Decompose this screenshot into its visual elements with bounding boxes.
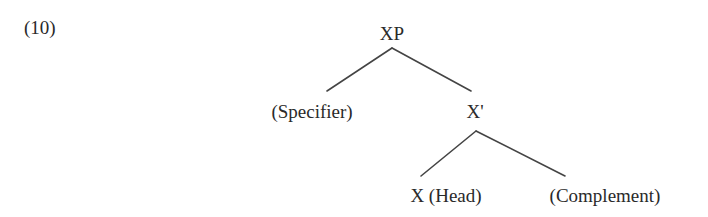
node-x-bar: X' <box>466 102 483 121</box>
branch-xbar-complement <box>476 131 565 176</box>
branch-xbar-head <box>421 131 476 176</box>
node-head: X (Head) <box>410 186 481 205</box>
x-bar-tree-diagram: XP (Specifier) X' X (Head) (Complement) <box>0 0 708 217</box>
node-xp-root: XP <box>380 24 404 43</box>
branch-xp-specifier <box>327 48 392 91</box>
node-specifier: (Specifier) <box>271 102 352 121</box>
branch-xp-xbar <box>392 48 471 91</box>
node-complement: (Complement) <box>550 186 661 205</box>
